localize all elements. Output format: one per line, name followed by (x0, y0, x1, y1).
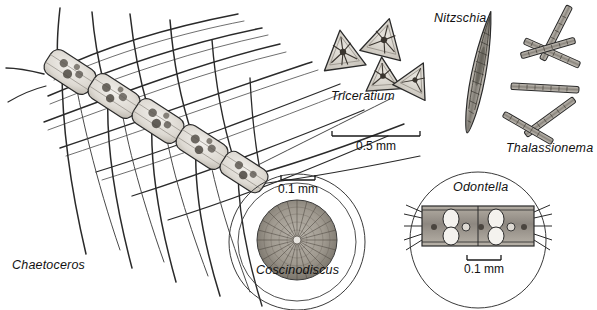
scale-bar-coscinodiscus-label: 0.1 mm (269, 182, 327, 196)
triceratium-group (319, 14, 439, 101)
diatom-plate: Chaetoceros Triceratium Nitzschia Thalas… (0, 0, 597, 310)
nitzschia-cell (460, 10, 497, 134)
label-coscinodiscus: Coscinodiscus (256, 263, 339, 277)
triceratium-cell (319, 27, 366, 70)
label-triceratium: Triceratium (331, 89, 395, 103)
label-chaetoceros: Chaetoceros (12, 258, 85, 272)
thalassionema-cell (511, 83, 579, 93)
scale-bar-odontella-mark (467, 255, 501, 260)
thalassionema-chain (502, 5, 581, 145)
chaetoceros-chain (41, 46, 272, 196)
scale-bar-main-label: 0.5 mm (330, 139, 422, 153)
triceratium-cell (393, 55, 440, 100)
triceratium-cell (360, 14, 410, 61)
odontella-band (404, 205, 552, 250)
label-nitzschia: Nitzschia (434, 11, 487, 25)
scale-bar-odontella-label: 0.1 mm (455, 262, 513, 276)
label-thalassionema: Thalassionema (506, 141, 593, 155)
label-odontella: Odontella (453, 180, 508, 194)
